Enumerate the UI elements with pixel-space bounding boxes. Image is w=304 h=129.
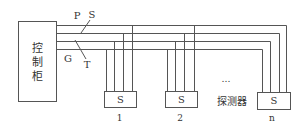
ellipsis: …	[222, 74, 231, 84]
bus-line-4	[57, 50, 263, 93]
detector-n-index: n	[269, 113, 275, 123]
bus-label-p: P	[74, 10, 81, 21]
detector-bus-diagram: 控 制 柜 P S G T S 1 S 2 … 探测器 S n	[0, 0, 304, 129]
controller-label-char-1: 控	[32, 41, 43, 55]
bus-label-s: S	[89, 9, 96, 20]
bus-label-t: T	[84, 59, 91, 70]
detector-2-index: 2	[177, 113, 183, 123]
detector-2: S 2	[166, 92, 198, 124]
detector-2-symbol: S	[178, 94, 185, 105]
detector-caption: 探测器	[217, 95, 247, 107]
bus-label-s-leader	[81, 20, 90, 33]
controller-label-char-3: 柜	[32, 70, 43, 83]
bus-line-1	[57, 26, 287, 93]
controller-label-char-2: 制	[32, 56, 43, 69]
bus-label-g: G	[64, 53, 72, 64]
detector-n: S n	[258, 93, 291, 124]
detector-n-symbol: S	[271, 95, 278, 106]
detector-1-symbol: S	[117, 94, 124, 105]
detector-1: S 1	[105, 92, 137, 124]
detector-1-index: 1	[117, 113, 123, 123]
